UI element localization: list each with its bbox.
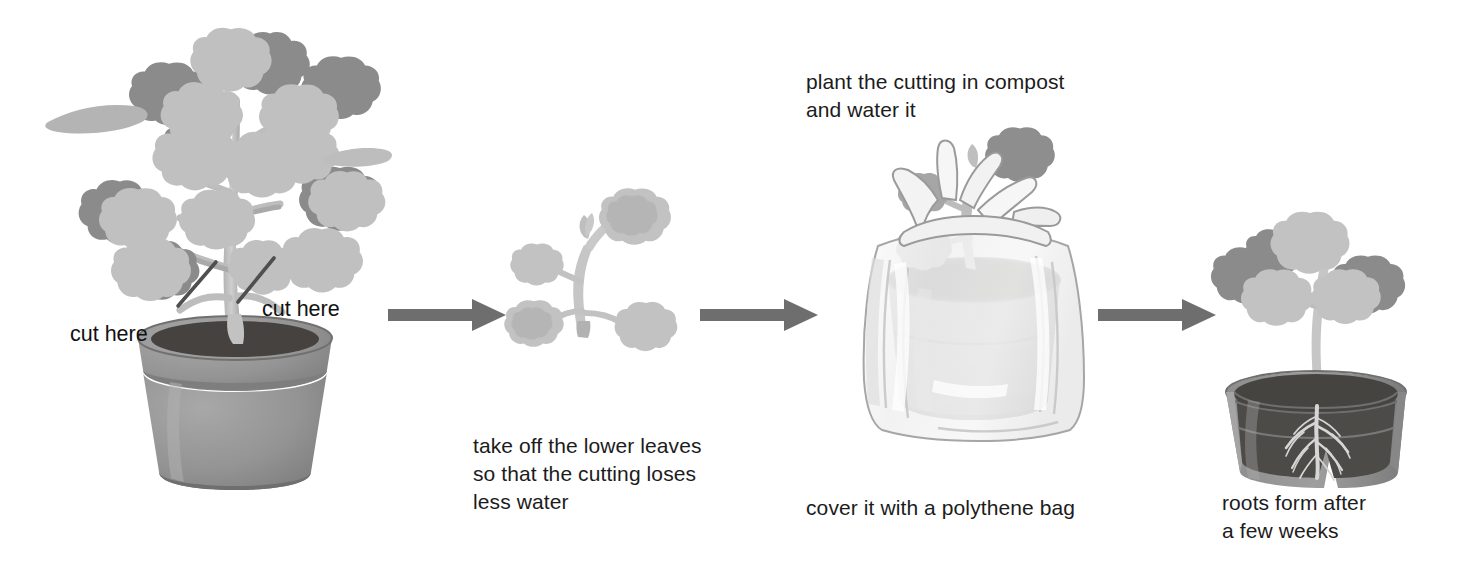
arrow-1 <box>388 297 508 333</box>
arrow-right-icon <box>700 297 820 333</box>
leaf-narrow-left <box>45 105 147 134</box>
cutting-illustration <box>500 185 720 355</box>
step-3-potted-in-bag <box>838 128 1108 468</box>
arrow-3 <box>1098 297 1218 333</box>
step-4-rooted <box>1212 210 1432 490</box>
label-cut-here-right: cut here <box>262 297 340 321</box>
arrow-right-icon <box>388 297 508 333</box>
rooted-cutting-illustration <box>1212 210 1432 490</box>
parent-plant-illustration <box>30 10 390 500</box>
caption-step-3-top: plant the cutting in compost and water i… <box>806 68 1166 124</box>
arrow-right-icon <box>1098 297 1218 333</box>
rooted-shoot <box>1211 212 1405 382</box>
arrow-2 <box>700 297 820 333</box>
step-1-parent-plant <box>30 10 390 500</box>
caption-step-4: roots form after a few weeks <box>1222 489 1422 545</box>
caption-step-3: cover it with a polythene bag <box>806 494 1166 522</box>
cutting-bud-2 <box>585 213 594 237</box>
cutting-stem-cut-end <box>577 321 591 338</box>
caption-step-2: take off the lower leaves so that the cu… <box>473 432 723 516</box>
diagram-canvas: cut here cut here <box>0 0 1463 569</box>
plant-pot <box>138 314 332 490</box>
polythene-bag <box>864 141 1084 442</box>
step-2-cutting <box>500 185 720 355</box>
label-cut-here-left: cut here <box>70 322 148 346</box>
bagged-pot-illustration <box>838 128 1108 468</box>
